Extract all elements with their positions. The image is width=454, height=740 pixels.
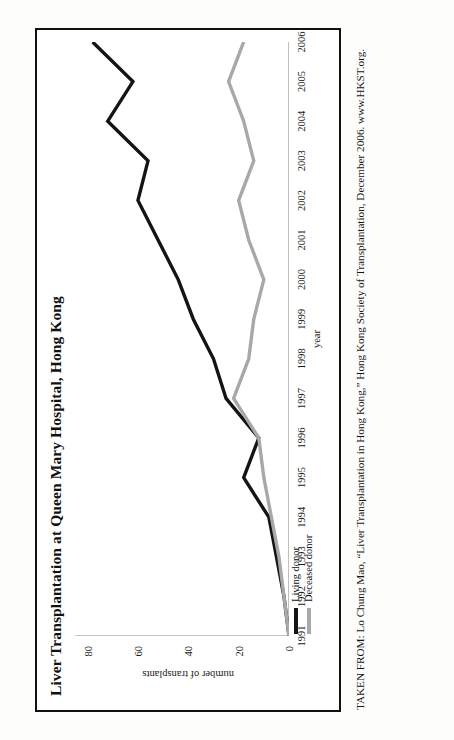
- x-tick-label: 2005: [296, 62, 307, 102]
- x-tick-label: 1996: [296, 418, 307, 458]
- x-tick-label: 2006: [296, 22, 307, 62]
- page-background: Liver Transplantation at Queen Mary Hosp…: [0, 0, 454, 740]
- x-tick-label: 2004: [296, 101, 307, 141]
- x-tick-label: 1994: [296, 497, 307, 537]
- x-tick-label: 1995: [296, 458, 307, 498]
- legend-swatch-icon: [294, 608, 298, 634]
- plot-area: 020406080 199119921993199419951996199719…: [75, 42, 289, 636]
- x-tick-label: 2000: [296, 260, 307, 300]
- axes: [75, 42, 289, 636]
- x-tick-label: 1998: [296, 339, 307, 379]
- legend-swatch-icon: [307, 608, 311, 634]
- x-axis-label: year: [311, 330, 322, 348]
- y-tick-label: 0: [284, 646, 295, 672]
- x-tick-label: 1999: [296, 299, 307, 339]
- figure-caption: TAKEN FROM: Lo Chung Mao, “Liver Transpl…: [353, 34, 369, 710]
- legend-item: Living donor: [289, 535, 302, 634]
- data-series: [93, 42, 289, 636]
- x-tick-label: 2001: [296, 220, 307, 260]
- y-axis-label: number of transplants: [142, 669, 234, 680]
- chart-legend: Living donorDeceased donor: [289, 535, 315, 634]
- x-tick-label: 2003: [296, 141, 307, 181]
- x-tick-label: 1997: [296, 378, 307, 418]
- legend-label: Deceased donor: [303, 535, 314, 602]
- x-tick-label: 2002: [296, 180, 307, 220]
- line-chart-svg: [75, 42, 289, 636]
- series-line: [229, 42, 289, 636]
- rotated-figure-wrapper: Liver Transplantation at Queen Mary Hosp…: [27, 20, 427, 720]
- chart-title: Liver Transplantation at Queen Mary Hosp…: [47, 296, 65, 696]
- figure: Liver Transplantation at Queen Mary Hosp…: [27, 20, 427, 720]
- series-line: [93, 42, 289, 636]
- y-tick-label: 20: [233, 646, 244, 672]
- legend-item: Deceased donor: [302, 535, 315, 634]
- y-tick-label: 80: [82, 646, 93, 672]
- legend-label: Living donor: [290, 547, 301, 602]
